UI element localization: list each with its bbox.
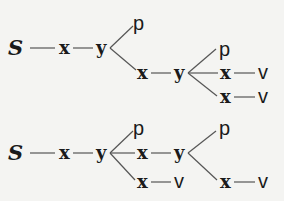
edge-y-x (188, 73, 217, 96)
node-x: x (137, 171, 148, 192)
node-y: y (173, 62, 185, 83)
node-x: x (137, 142, 148, 163)
node-x: x (220, 62, 231, 83)
edge-y-x (110, 153, 135, 180)
node-x: x (137, 62, 148, 83)
edge-y-p (110, 131, 133, 153)
node-p: p (133, 12, 144, 34)
node-v: v (258, 61, 268, 83)
edge-y-p (188, 49, 216, 73)
node-x: x (220, 86, 231, 107)
node-p: p (133, 117, 144, 139)
node-v: v (258, 85, 268, 107)
node-s: S (8, 140, 23, 165)
node-x: x (59, 37, 70, 58)
node-p: p (219, 38, 230, 60)
node-x: x (220, 171, 231, 192)
node-x: x (59, 142, 70, 163)
node-y: y (173, 142, 185, 163)
edge-y-x (110, 48, 136, 70)
node-v: v (174, 170, 184, 192)
tree-1-nodes: S x y p x y p x v x v (8, 12, 268, 107)
edge-y-x (188, 153, 217, 180)
node-y: y (95, 142, 107, 163)
node-v: v (258, 170, 268, 192)
node-y: y (95, 37, 107, 58)
edge-y-p (188, 131, 216, 153)
node-s: S (8, 35, 23, 60)
tree-2-nodes: S x y p x y x v p x v (8, 117, 268, 192)
edge-y-p (110, 26, 133, 48)
tree-diagram: S x y p x y p x v x v S x y p x y x v p … (0, 0, 284, 201)
node-p: p (219, 117, 230, 139)
